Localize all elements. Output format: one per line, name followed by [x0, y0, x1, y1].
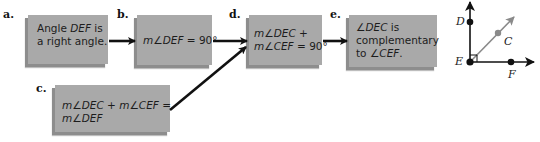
point-F: [508, 59, 515, 66]
point-label-D: D: [456, 15, 465, 28]
point-label-F: F: [508, 68, 516, 81]
point-E: [466, 58, 473, 65]
point-label-C: C: [504, 35, 512, 48]
flow-arrow-c-to-d: [170, 47, 246, 110]
point-C: [495, 30, 501, 36]
point-label-E: E: [455, 55, 463, 68]
point-D: [467, 19, 474, 26]
right-angle-figure: [466, 2, 534, 66]
